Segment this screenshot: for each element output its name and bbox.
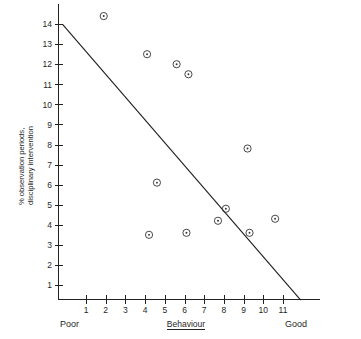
data-point-center — [146, 53, 148, 55]
x-tick-label: 7 — [202, 305, 207, 315]
y-tick-label: 14 — [43, 19, 53, 29]
data-point — [153, 179, 160, 186]
data-point — [222, 205, 229, 212]
x-axis-anchor-poor: Poor — [60, 319, 79, 329]
y-tick-label: 3 — [47, 240, 52, 250]
x-tick-label: 2 — [103, 305, 108, 315]
data-point — [214, 217, 221, 224]
data-point — [272, 215, 279, 222]
data-point-center — [247, 148, 249, 150]
x-tick-label: 11 — [279, 305, 288, 315]
x-tick-label: 5 — [162, 305, 167, 315]
y-tick-label: 9 — [47, 120, 52, 130]
data-point-center — [103, 15, 105, 17]
x-tick-label: 1 — [84, 305, 89, 315]
x-axis-title-text: Behaviour — [167, 319, 205, 329]
data-point-center — [156, 182, 158, 184]
plot-area: 1234567891011121314 1234567891011 % obse… — [0, 0, 361, 339]
data-point — [185, 71, 192, 78]
data-point — [246, 229, 253, 236]
y-tick-label: 1 — [47, 280, 52, 290]
data-point-center — [249, 232, 251, 234]
y-tick-label: 12 — [43, 59, 53, 69]
data-point — [244, 145, 251, 152]
y-tick-label: 2 — [47, 260, 52, 270]
x-axis-title: Behaviour — [167, 319, 205, 330]
y-tick-label: 8 — [47, 140, 52, 150]
x-axis-ticks: 1234567891011 — [84, 295, 288, 315]
data-point — [100, 12, 107, 19]
data-point-center — [148, 234, 150, 236]
trend-line — [62, 24, 300, 300]
y-axis-title: % observation periods, disciplinary inte… — [17, 126, 35, 205]
x-tick-label: 9 — [241, 305, 246, 315]
y-axis-title-line1: % observation periods, — [17, 128, 26, 205]
data-point — [143, 51, 150, 58]
data-point — [173, 61, 180, 68]
y-axis-ticks: 1234567891011121314 — [43, 19, 63, 290]
y-tick-label: 7 — [47, 160, 52, 170]
data-point — [183, 229, 190, 236]
y-axis-title-line2: disciplinary intervention — [26, 126, 35, 205]
y-tick-label: 5 — [47, 200, 52, 210]
x-axis-anchor-good: Good — [285, 319, 307, 329]
x-tick-label: 3 — [123, 305, 128, 315]
data-point-center — [217, 220, 219, 222]
x-tick-label: 6 — [182, 305, 187, 315]
y-tick-label: 10 — [43, 100, 53, 110]
y-tick-label: 13 — [43, 39, 53, 49]
y-tick-label: 4 — [47, 220, 52, 230]
y-tick-label: 11 — [43, 80, 52, 90]
y-tick-label: 6 — [47, 180, 52, 190]
data-point-center — [176, 63, 178, 65]
x-tick-label: 8 — [222, 305, 227, 315]
data-point-center — [274, 218, 276, 220]
scatter-chart: 1234567891011121314 1234567891011 % obse… — [0, 0, 361, 339]
x-tick-label: 4 — [143, 305, 148, 315]
data-point-center — [186, 232, 188, 234]
data-point — [145, 231, 152, 238]
data-point-center — [187, 73, 189, 75]
data-point-center — [225, 208, 227, 210]
x-tick-label: 10 — [259, 305, 269, 315]
data-points — [100, 12, 279, 238]
